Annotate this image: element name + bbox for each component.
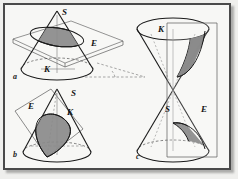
apex-label-c: S <box>165 104 170 114</box>
cone-label-c: K <box>157 24 165 34</box>
cone-label-a: K <box>43 64 51 74</box>
conic-sections-diagram: S E K a <box>5 5 229 168</box>
plane-label-c: E <box>200 104 207 114</box>
plane-label-a: E <box>90 38 97 48</box>
panel-c-hyperbola: K S E c <box>136 18 217 162</box>
panel-label-b: b <box>13 150 17 159</box>
plane-label-b: E <box>27 101 34 111</box>
figure-frame: S E K a <box>3 3 231 170</box>
angle-indicator-a <box>85 63 145 77</box>
cone-label-b: K <box>66 107 74 117</box>
panel-label-a: a <box>13 72 17 81</box>
panel-label-c: c <box>136 152 140 161</box>
figure-root: S E K a <box>0 0 238 179</box>
panel-b-parabola: S E K b <box>13 88 91 162</box>
apex-label-b: S <box>71 88 76 98</box>
panel-a-ellipse: S E K a <box>13 7 145 81</box>
apex-label-a: S <box>62 7 67 17</box>
